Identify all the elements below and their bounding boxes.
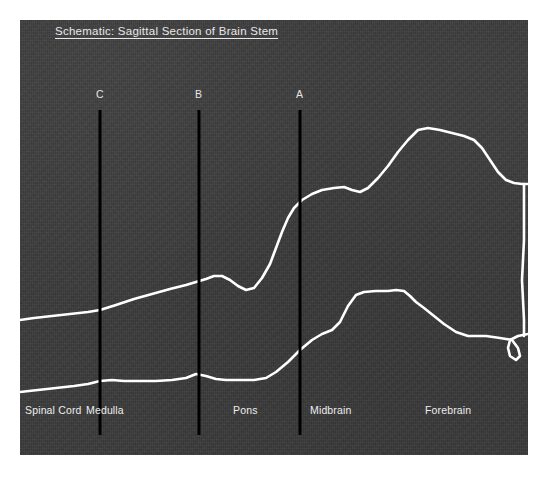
- label-medulla: Medulla: [86, 404, 124, 416]
- label-spinal-cord: Spinal Cord: [25, 404, 82, 416]
- marker-a-label: A: [296, 88, 303, 100]
- label-forebrain: Forebrain: [425, 404, 471, 416]
- contour-ventral-contour: [20, 290, 528, 392]
- marker-line-group: [100, 110, 300, 435]
- label-midbrain: Midbrain: [310, 404, 351, 416]
- label-pons: Pons: [233, 404, 258, 416]
- contour-dorsal-contour: [20, 128, 528, 320]
- brain-stem-schematic-figure: Schematic: Sagittal Section of Brain Ste…: [0, 0, 542, 478]
- contour-group: [20, 128, 528, 392]
- page-title: Schematic: Sagittal Section of Brain Ste…: [55, 25, 278, 37]
- figure-plate: [20, 20, 528, 455]
- marker-b-label: B: [195, 88, 202, 100]
- contour-drawing-layer: [20, 20, 528, 455]
- contour-right-edge-connector: [522, 184, 524, 336]
- marker-c-label: C: [96, 88, 104, 100]
